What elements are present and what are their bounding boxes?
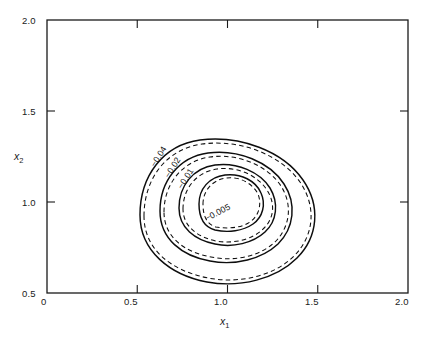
x-axis-ticks — [137, 285, 318, 293]
x-axis-top-ticks — [137, 20, 318, 28]
x-axis-title-sub: 1 — [225, 321, 229, 330]
y-axis-ticks — [47, 111, 55, 202]
contour-plot-figure: −0.04 −0.02 −0.01 −0.005 0 0.5 1.0 1.5 2… — [0, 0, 427, 339]
x-axis-title: x1 — [220, 315, 229, 330]
y-axis-title: x2 — [14, 150, 23, 165]
contour-label--0.04: −0.04 — [148, 144, 168, 168]
xtick-label-2.0: 2.0 — [395, 296, 409, 307]
ytick-label-0.5: 0.5 — [22, 288, 36, 299]
contour-label--0.02: −0.02 — [162, 155, 182, 179]
contour-label--0.01: −0.01 — [175, 166, 195, 190]
ytick-label-1.0: 1.0 — [22, 197, 36, 208]
y-axis-right-ticks — [400, 111, 408, 202]
xtick-label-1.0: 1.0 — [214, 296, 228, 307]
plot-canvas: −0.04 −0.02 −0.01 −0.005 — [0, 0, 427, 339]
xtick-label-0: 0 — [41, 296, 46, 307]
y-axis-title-sub: 2 — [19, 156, 23, 165]
xtick-label-1.5: 1.5 — [305, 296, 319, 307]
ytick-label-1.5: 1.5 — [22, 106, 36, 117]
contour-label--0.005: −0.005 — [203, 202, 232, 224]
xtick-label-0.5: 0.5 — [124, 296, 138, 307]
contour-level--0.005 — [199, 175, 263, 232]
ytick-label-2.0: 2.0 — [22, 15, 36, 26]
